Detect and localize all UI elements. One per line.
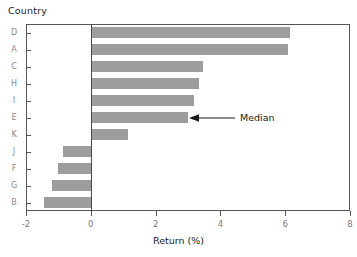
y-axis-tick xyxy=(26,101,31,102)
x-axis-tick-label: 0 xyxy=(78,219,104,229)
bar xyxy=(91,78,200,89)
y-axis-tick-label: I xyxy=(6,97,22,105)
y-axis-tick xyxy=(26,67,31,68)
bar xyxy=(91,44,289,55)
bar xyxy=(52,180,91,191)
y-axis-tick-label: F xyxy=(6,165,22,173)
y-axis-tick xyxy=(26,169,31,170)
y-axis-tick xyxy=(26,203,31,204)
y-axis-tick-label: J xyxy=(6,148,22,156)
y-axis-tick-label: C xyxy=(6,63,22,71)
median-label: Median xyxy=(240,112,275,123)
chart-title: Country xyxy=(8,5,47,16)
y-axis-tick xyxy=(26,84,31,85)
bar xyxy=(63,146,91,157)
bar xyxy=(44,197,91,208)
median-arrow-icon xyxy=(189,113,237,123)
y-axis-tick xyxy=(26,50,31,51)
y-axis-tick-label: E xyxy=(6,114,22,122)
bar xyxy=(91,27,290,38)
bars-layer xyxy=(26,24,350,211)
x-axis-tick xyxy=(91,211,92,216)
y-axis-tick xyxy=(26,33,31,34)
y-axis-tick xyxy=(26,186,31,187)
x-axis-tick xyxy=(156,211,157,216)
y-axis-tick xyxy=(26,118,31,119)
y-axis-tick-label: G xyxy=(6,182,22,190)
x-axis-tick-label: 2 xyxy=(143,219,169,229)
x-axis-tick xyxy=(26,211,27,216)
median-annotation: Median xyxy=(189,112,275,124)
x-axis-tick-label: -2 xyxy=(13,219,39,229)
x-axis-title: Return (%) xyxy=(0,235,357,246)
x-axis-tick xyxy=(220,211,221,216)
bar xyxy=(58,163,90,174)
bar xyxy=(91,95,195,106)
y-axis-tick-label: K xyxy=(6,131,22,139)
bar-chart: Country DACHIEKJFGB -202468 Return (%) M… xyxy=(0,0,357,257)
x-axis-tick-label: 8 xyxy=(337,219,357,229)
y-axis-tick-label: B xyxy=(6,199,22,207)
y-axis-tick-label: H xyxy=(6,80,22,88)
y-axis-tick-label: A xyxy=(6,46,22,54)
y-axis-tick-label: D xyxy=(6,29,22,37)
x-axis-tick xyxy=(350,211,351,216)
x-axis-tick-label: 6 xyxy=(272,219,298,229)
bar xyxy=(91,129,128,140)
bar xyxy=(91,61,203,72)
bar xyxy=(91,112,188,123)
x-axis-tick xyxy=(285,211,286,216)
y-axis-tick xyxy=(26,135,31,136)
zero-baseline xyxy=(91,24,92,211)
y-axis-tick xyxy=(26,152,31,153)
x-axis-tick-label: 4 xyxy=(207,219,233,229)
